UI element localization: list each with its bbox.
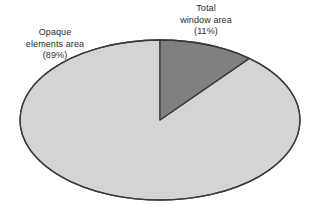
pie-label-window-line2: window area [151, 15, 261, 27]
pie-label-total-window-area: Total window area (11%) [151, 3, 261, 38]
pie-label-opaque-percent: (89%) [0, 50, 110, 62]
pie-label-opaque-elements-area: Opaque elements area (89%) [0, 27, 110, 62]
pie-label-window-line1: Total [151, 3, 261, 15]
pie-label-opaque-line2: elements area [0, 39, 110, 51]
pie-chart-figure: Total window area (11%) Opaque elements … [0, 0, 311, 214]
pie-label-opaque-line1: Opaque [0, 27, 110, 39]
pie-label-window-percent: (11%) [151, 26, 261, 38]
